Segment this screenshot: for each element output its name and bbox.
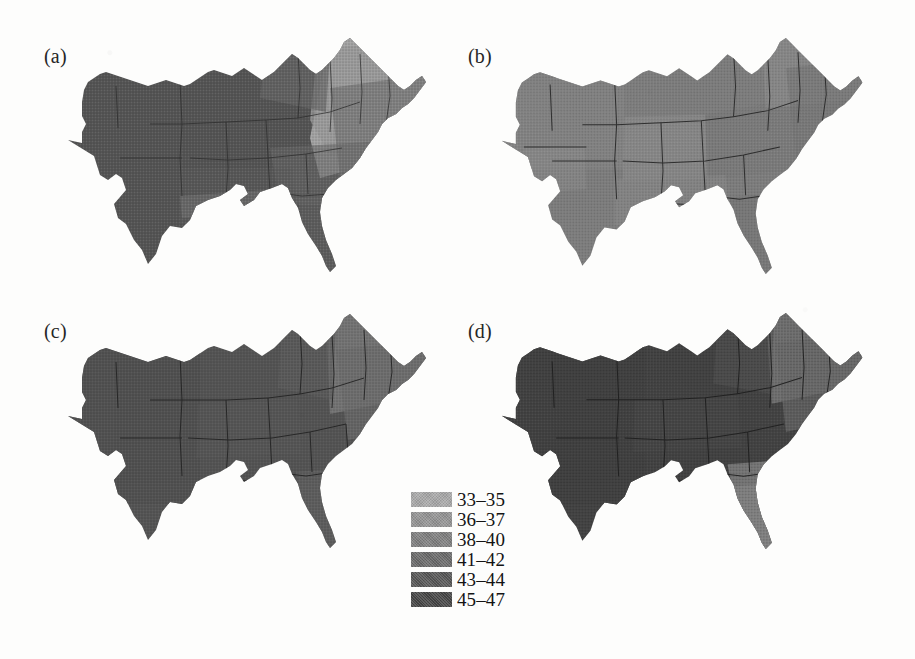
legend-label-45-47: 45–47 [457,590,505,609]
panel-d: (d) [440,295,915,595]
legend-item: 38–40 [411,529,505,549]
legend-item: 36–37 [411,509,505,529]
panel-d-map [455,303,875,565]
panel-c-map [30,303,430,565]
legend-item: 43–44 [411,569,505,589]
legend-label-33-35: 33–35 [457,490,505,509]
legend-swatch-41-42 [411,552,452,567]
figure-four-panel-choropleth: (a) [0,0,915,659]
legend-label-41-42: 41–42 [457,550,505,569]
panel-b: (b) [440,0,915,300]
legend-swatch-33-35 [411,492,452,507]
legend-swatch-36-37 [411,512,452,527]
panel-b-map [455,28,875,290]
legend-swatch-43-44 [411,572,452,587]
legend-label-38-40: 38–40 [457,530,505,549]
legend-item: 45–47 [411,589,505,609]
legend-label-36-37: 36–37 [457,510,505,529]
legend-item: 41–42 [411,549,505,569]
panel-a-map [30,28,430,288]
legend-swatch-45-47 [411,592,452,607]
panel-a: (a) [0,0,440,300]
legend-item: 33–35 [411,489,505,509]
legend-label-43-44: 43–44 [457,570,505,589]
legend: 33–35 36–37 38–40 41–42 43–44 45–47 [411,489,505,609]
legend-swatch-38-40 [411,532,452,547]
panel-c: (c) [0,295,440,595]
